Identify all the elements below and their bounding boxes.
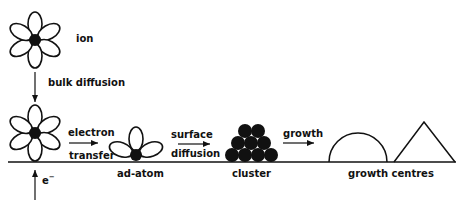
bulk-diffusion-label: bulk diffusion [48,77,125,88]
ad-atom-label: ad-atom [117,168,164,179]
cluster-icon [225,124,278,162]
diffusion-label: diffusion [171,148,220,159]
ion-icon [7,12,62,68]
surface-ion-icon [7,105,62,161]
cone-growth-centre-icon [394,122,455,162]
ion-label: ion [76,33,93,44]
growth-label: growth [283,128,323,139]
surface-label: surface [171,129,213,140]
electron-symbol: e− [42,173,55,186]
growth-centres-label: growth centres [348,168,434,179]
transfer-label: transfer [69,150,115,161]
ad-atom-icon [107,127,164,161]
cluster-label: cluster [232,168,271,179]
hemisphere-growth-centre-icon [329,133,387,162]
electrodeposition-diagram: ion bulk diffusion electron transfer ad-… [0,0,470,208]
electron-label: electron [68,127,115,138]
